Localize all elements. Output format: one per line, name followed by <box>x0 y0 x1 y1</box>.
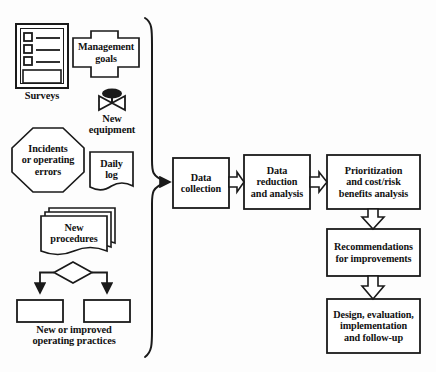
survey-checklist-icon <box>16 24 68 88</box>
arrow-collection-to-reduction <box>229 172 244 192</box>
surveys-label: Surveys <box>10 90 74 101</box>
management-goals-label: Management goals <box>73 38 139 67</box>
valve-icon <box>99 89 125 111</box>
arrow-recommendations-to-design <box>362 276 384 299</box>
process-label-design: Design, evaluation, implementation and f… <box>326 299 421 353</box>
incidents-label: Incidents or operating errors <box>12 136 84 184</box>
process-label-recommendations: Recommendations for improvements <box>325 229 422 276</box>
arrow-prioritization-to-recommendations <box>362 209 384 229</box>
operating-practices-label: New or improved operating practices <box>15 324 133 346</box>
decision-diamond-shape <box>54 262 92 283</box>
process-label-data-reduction: Data reduction and analysis <box>244 155 310 209</box>
grouping-brace <box>145 18 166 357</box>
new-equipment-label: New equipment <box>80 113 144 135</box>
daily-log-label: Daily log <box>90 155 133 183</box>
outcome-box-right <box>84 300 130 322</box>
new-procedures-label: New procedures <box>41 219 107 247</box>
process-label-data-collection: Data collection <box>173 158 229 208</box>
arrow-reduction-to-prioritization <box>310 172 327 192</box>
outcome-box-left <box>17 300 63 322</box>
diagram-canvas: Surveys Management goals New equipment I… <box>0 0 436 372</box>
process-label-prioritization: Prioritization and cost/risk benefits an… <box>327 155 420 209</box>
